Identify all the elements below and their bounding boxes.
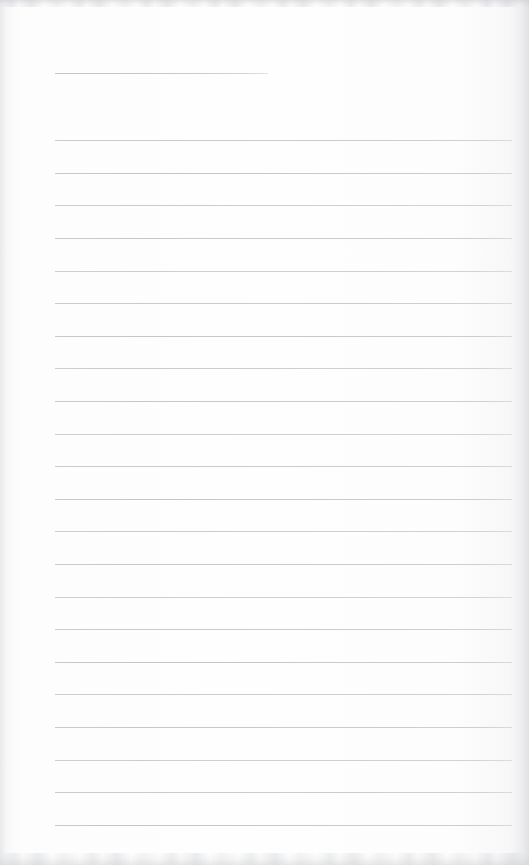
ruled-line — [55, 434, 512, 435]
ruled-line — [55, 760, 512, 761]
ruled-line — [55, 336, 512, 337]
ruled-line — [55, 597, 512, 598]
ruled-line — [55, 368, 512, 369]
ruled-lines-layer — [0, 0, 529, 865]
ruled-line — [55, 401, 512, 402]
ruled-line — [55, 564, 512, 565]
title-rule — [55, 73, 268, 74]
ruled-line — [55, 499, 512, 500]
ruled-line — [55, 140, 512, 141]
ruled-line — [55, 205, 512, 206]
ruled-line — [55, 825, 512, 826]
ruled-line — [55, 727, 512, 728]
ruled-line — [55, 629, 512, 630]
ruled-notepad-page — [0, 0, 529, 865]
ruled-line — [55, 694, 512, 695]
ruled-line — [55, 662, 512, 663]
ruled-line — [55, 531, 512, 532]
ruled-line — [55, 303, 512, 304]
ruled-line — [55, 271, 512, 272]
ruled-line — [55, 792, 512, 793]
ruled-line — [55, 466, 512, 467]
ruled-line — [55, 238, 512, 239]
ruled-line — [55, 173, 512, 174]
